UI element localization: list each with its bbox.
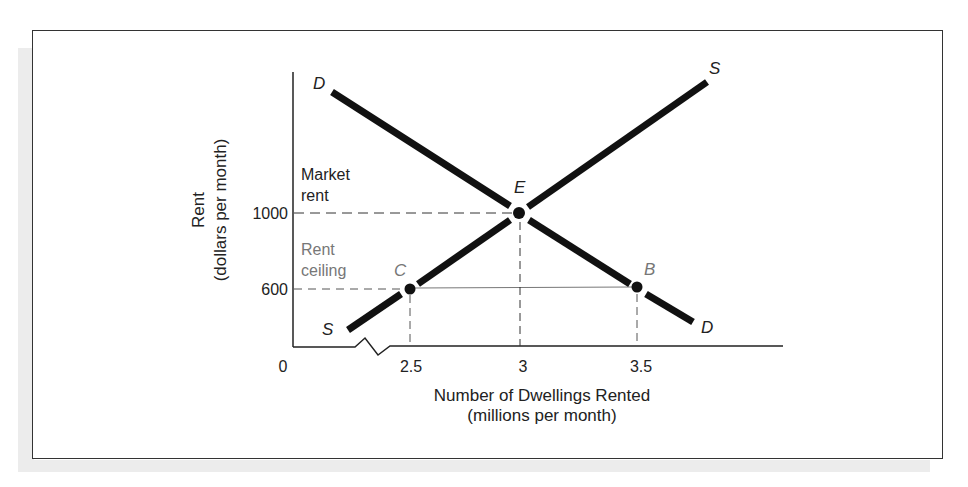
- supply-demand-chart: D D S S E C B Market rent Rent ceiling 1…: [0, 0, 968, 487]
- label-b: B: [644, 260, 655, 279]
- label-d-top: D: [313, 74, 325, 93]
- label-d-bottom: D: [701, 318, 713, 337]
- label-s-bottom: S: [322, 320, 334, 339]
- label-s-top: S: [709, 59, 721, 78]
- point-c: [405, 284, 416, 295]
- x-axis-subtitle: (millions per month): [467, 406, 616, 425]
- x-tick-0: 0: [279, 358, 288, 375]
- label-e: E: [514, 178, 526, 197]
- point-b: [632, 282, 643, 293]
- x-tick-3-5: 3.5: [630, 358, 652, 375]
- x-tick-2-5: 2.5: [400, 358, 422, 375]
- market-rent-label-1: Market: [301, 166, 350, 183]
- x-tick-3: 3: [519, 358, 528, 375]
- rent-ceiling-label-2: ceiling: [301, 262, 346, 279]
- y-axis-title: Rent: [189, 192, 208, 228]
- label-c: C: [394, 261, 407, 280]
- rent-ceiling-solid-line: [414, 287, 632, 288]
- x-axis-title: Number of Dwellings Rented: [434, 386, 650, 405]
- supply-curve: [348, 82, 707, 330]
- point-e: [513, 207, 525, 219]
- rent-ceiling-label-1: Rent: [301, 241, 335, 258]
- y-tick-600: 600: [261, 281, 288, 298]
- y-tick-1000: 1000: [252, 205, 288, 222]
- x-axis-with-break: [293, 338, 783, 355]
- market-rent-label-2: rent: [301, 187, 329, 204]
- y-axis-subtitle: (dollars per month): [211, 139, 230, 282]
